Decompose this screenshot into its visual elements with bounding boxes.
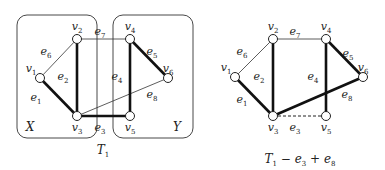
edge-label-e3: e3: [95, 121, 106, 136]
edge-label-e6: e6: [41, 45, 53, 60]
vertex-v4: [126, 35, 135, 44]
vertex-label-v4: v4: [125, 20, 136, 35]
diagram-canvas: XYe1e2e3e4e5e6e7e8v1v2v3v4v5v6T1 e1e2e3e…: [0, 0, 385, 170]
set-label-y: Y: [173, 120, 182, 134]
edge-label-e2: e2: [58, 70, 69, 85]
vertex-label-v3: v3: [268, 121, 279, 136]
vertex-label-v1: v1: [26, 62, 37, 77]
edge-label-e2: e2: [254, 70, 265, 85]
edge-label-e8: e8: [147, 88, 158, 103]
edge-label-e1: e1: [31, 91, 42, 106]
edge-label-e8: e8: [342, 88, 353, 103]
right-graph-t1-minus-e3-plus-e8: e1e2e3e4e5e6e7e8v1v2v3v4v5v6T1 − e3 + e8: [221, 20, 369, 168]
vertex-label-v2: v2: [72, 20, 83, 35]
edge-label-e6: e6: [237, 45, 249, 60]
vertex-v5: [126, 112, 135, 121]
edge-label-e4: e4: [308, 70, 320, 85]
vertex-v2: [269, 35, 278, 44]
edge-e1: [40, 78, 77, 116]
caption-t1-minus-e3-plus-e8: T1 − e3 + e8: [264, 152, 335, 168]
set-label-x: X: [25, 120, 35, 134]
edge-label-e4: e4: [112, 70, 124, 85]
vertex-label-v6: v6: [163, 62, 174, 77]
vertex-v1: [231, 73, 240, 82]
vertex-v2: [73, 35, 82, 44]
edge-label-e5: e5: [147, 45, 158, 60]
vertex-label-v1: v1: [221, 61, 232, 76]
vertex-v5: [322, 112, 331, 121]
vertex-label-v5: v5: [125, 121, 136, 136]
vertex-label-v4: v4: [321, 20, 332, 35]
caption-t1: T1: [97, 143, 109, 159]
vertex-label-v2: v2: [268, 20, 279, 35]
edge-label-e7: e7: [95, 25, 106, 40]
vertex-v3: [73, 112, 82, 121]
edge-label-e1: e1: [237, 93, 248, 108]
vertex-v4: [322, 35, 331, 44]
edge-label-e7: e7: [290, 25, 301, 40]
set-box-y: [113, 15, 193, 138]
edge-label-e5: e5: [343, 47, 354, 62]
vertex-label-v6: v6: [358, 61, 369, 76]
vertex-v3: [269, 112, 278, 121]
vertex-label-v3: v3: [72, 121, 83, 136]
left-graph-t1: XYe1e2e3e4e5e6e7e8v1v2v3v4v5v6T1: [17, 15, 193, 159]
edge-label-e3: e3: [290, 121, 301, 136]
vertex-v1: [36, 74, 45, 83]
vertex-label-v5: v5: [321, 121, 332, 136]
